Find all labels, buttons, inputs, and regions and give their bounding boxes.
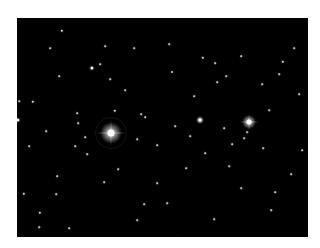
star [293, 47, 295, 49]
star [109, 78, 111, 80]
star [144, 116, 146, 118]
star [104, 45, 106, 47]
star [76, 112, 78, 114]
star [90, 66, 93, 69]
star [290, 173, 292, 175]
star [77, 122, 79, 124]
star [225, 75, 227, 77]
star [133, 47, 135, 49]
star [213, 218, 215, 220]
star [103, 181, 105, 183]
star [240, 55, 242, 57]
star [84, 136, 86, 138]
star [68, 227, 70, 229]
star [193, 95, 195, 97]
star [261, 83, 263, 85]
star [223, 127, 225, 129]
star [28, 145, 30, 147]
star [185, 167, 187, 169]
star [240, 187, 242, 189]
star [278, 73, 280, 75]
star [99, 63, 101, 65]
star [262, 147, 264, 149]
star [39, 212, 41, 214]
star [56, 175, 58, 177]
star [228, 165, 230, 167]
star [189, 135, 191, 137]
star [298, 93, 300, 95]
star [174, 125, 176, 127]
star [214, 62, 216, 64]
star [202, 57, 204, 59]
star [136, 138, 138, 140]
star [282, 61, 284, 63]
bright-star [108, 130, 115, 137]
star [156, 182, 158, 184]
star [274, 191, 276, 193]
star [45, 130, 47, 132]
star [166, 202, 168, 204]
star-field-image [17, 18, 308, 237]
star [17, 118, 20, 121]
star [243, 137, 245, 139]
star [18, 100, 20, 102]
star [216, 81, 218, 83]
star [74, 145, 76, 147]
star [143, 203, 145, 205]
star [114, 110, 116, 112]
star [140, 113, 142, 115]
star [156, 144, 158, 146]
bright-star [247, 120, 252, 125]
star [23, 193, 25, 195]
star [168, 43, 170, 45]
star [49, 47, 51, 49]
star [124, 89, 126, 91]
bright-star [199, 119, 202, 122]
star [231, 143, 233, 145]
star [136, 219, 138, 221]
star [61, 30, 63, 32]
star [171, 71, 173, 73]
star [58, 75, 60, 77]
star [117, 168, 119, 170]
star [246, 131, 248, 133]
star [86, 153, 88, 155]
star [55, 193, 57, 195]
star [270, 209, 272, 211]
star [301, 149, 303, 151]
star [32, 101, 34, 103]
star [204, 152, 206, 154]
star [268, 109, 270, 111]
star [38, 226, 40, 228]
